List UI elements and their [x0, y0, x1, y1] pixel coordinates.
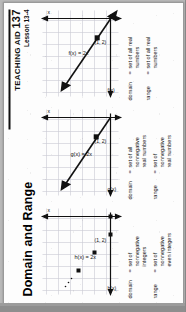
axis-label-x: x: [47, 206, 50, 212]
domain-row: domain = set of nonnegative integers: [126, 204, 147, 298]
header: TEACHING AID 137 Lesson 13-4: [9, 9, 29, 159]
graph-scatter: h(x) x h(x) = 2x (1, 2): [38, 204, 124, 298]
point-label-f: (1, 2): [94, 38, 106, 44]
range-value: set of nonnegative even integers: [151, 204, 172, 266]
panel-ray: g(x) x g(x) = 2x (1, 2) domain = set of …: [38, 105, 178, 199]
domain-value: set of nonnegative integers: [126, 204, 147, 266]
point-label-h: (1, 2): [94, 236, 106, 242]
axis-label-y-f: f(x): [107, 86, 115, 92]
domain-row: domain = set of all real numbers: [126, 6, 140, 100]
range-equals: =: [151, 266, 172, 272]
function-label-h: h(x) = 2x: [74, 253, 96, 259]
graph-line: f(x) x f(x) = 2x (1, 2): [38, 6, 124, 100]
range-equals: =: [144, 68, 158, 74]
range-row: range = set of nonnegative even integers: [151, 204, 172, 298]
domain-label: domain: [126, 173, 147, 199]
range-row: range = set of nonnegative real numbers: [151, 105, 172, 199]
worksheet-content-rotated: TEACHING AID 137 Lesson 13-4 Domain and …: [4, 3, 183, 303]
teaching-aid-line: TEACHING AID 137: [9, 9, 21, 159]
axis-label-x: x: [47, 8, 50, 14]
range-row: range = set of all real numbers: [144, 6, 158, 100]
range-label: range: [144, 74, 158, 100]
panel-scatter: h(x) x h(x) = 2x (1, 2) domain = set of …: [38, 204, 178, 298]
domain-label: domain: [126, 74, 140, 100]
description-ray: domain = set of all nonnegative real num…: [126, 105, 176, 199]
domain-equals: =: [126, 167, 147, 173]
scan-bottom-strip-dark: [0, 306, 185, 312]
lesson-label: Lesson 13-4: [22, 9, 29, 159]
domain-value: set of all real numbers: [126, 6, 140, 68]
worksheet-sheet: TEACHING AID 137 Lesson 13-4 Domain and …: [3, 2, 184, 304]
domain-equals: =: [126, 68, 140, 74]
teaching-aid-label: TEACHING AID: [12, 30, 21, 90]
domain-equals: =: [126, 266, 147, 272]
page-root: TEACHING AID 137 Lesson 13-4 Domain and …: [0, 0, 185, 312]
axis-label-y-h: h(x): [107, 284, 116, 290]
function-label-g: g(x) = 2x: [70, 150, 92, 156]
description-scatter: domain = set of nonnegative integers ran…: [126, 204, 176, 298]
function-label-f: f(x) = 2x: [68, 49, 88, 55]
axis-label-x: x: [47, 107, 50, 113]
point-label-g: (1, 2): [94, 137, 106, 143]
range-label: range: [151, 173, 172, 199]
panels-container: h(x) x h(x) = 2x (1, 2) domain = set of …: [38, 6, 178, 298]
page-title: Domain and Range: [20, 181, 34, 296]
teaching-aid-number: 137: [9, 9, 21, 28]
domain-value: set of all nonnegative real numbers: [126, 105, 147, 167]
range-value: set of all real numbers: [144, 6, 158, 68]
axis-label-y-g: g(x): [107, 185, 116, 191]
domain-label: domain: [126, 272, 147, 298]
graph-ray: g(x) x g(x) = 2x (1, 2): [38, 105, 124, 199]
range-label: range: [151, 272, 172, 298]
description-line: domain = set of all real numbers range =…: [126, 6, 162, 100]
panel-line: f(x) x f(x) = 2x (1, 2) domain = set of …: [38, 6, 178, 100]
range-equals: =: [151, 167, 172, 173]
domain-row: domain = set of all nonnegative real num…: [126, 105, 147, 199]
range-value: set of nonnegative real numbers: [151, 105, 172, 167]
